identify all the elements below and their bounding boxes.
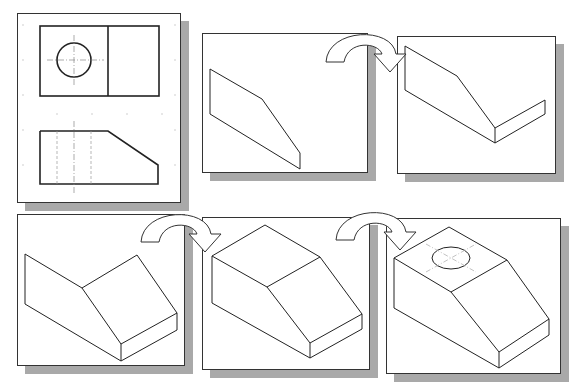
curved-arrow-icon: [137, 200, 227, 260]
grid-dots: [22, 24, 176, 166]
top-view: [40, 26, 159, 96]
isometric-step-3-drawing: [397, 36, 567, 186]
panel-step-1: [17, 13, 187, 213]
curved-arrow-icon: [322, 20, 412, 80]
panel-step-3: [397, 36, 567, 186]
front-view: [40, 131, 158, 184]
orthographic-views-drawing: [17, 13, 187, 213]
curved-arrow-icon: [332, 198, 422, 258]
